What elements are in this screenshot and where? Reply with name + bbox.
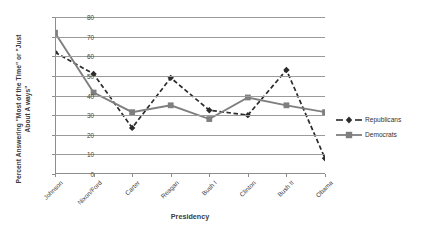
gridline — [55, 56, 325, 57]
y-tick-label: 40 — [87, 92, 94, 99]
x-tick-mark — [325, 174, 326, 177]
line-chart: Percent Answering "Most of the Time" or … — [0, 0, 423, 241]
y-tick-label: 10 — [87, 151, 94, 158]
y-tick-label: 60 — [87, 53, 94, 60]
gridline — [55, 17, 325, 18]
x-tick-mark — [286, 174, 287, 177]
x-tick-mark — [171, 174, 172, 177]
y-tick-mark — [52, 135, 55, 136]
x-tick-mark — [55, 174, 56, 177]
y-tick-mark — [52, 76, 55, 77]
y-tick-mark — [52, 154, 55, 155]
legend-label-republicans: Republicans — [365, 116, 401, 123]
x-tick-mark — [248, 174, 249, 177]
data-point — [283, 67, 289, 73]
chart-legend: Republicans Democrats — [336, 112, 421, 142]
legend-item-republicans: Republicans — [336, 112, 421, 127]
y-tick-mark — [52, 17, 55, 18]
y-tick-label: 0 — [90, 171, 94, 178]
legend-key-democrats — [336, 130, 362, 140]
legend-label-democrats: Democrats — [365, 131, 397, 138]
gridline — [55, 135, 325, 136]
data-point — [206, 116, 212, 122]
y-axis-title-line2: About A ways" — [23, 24, 32, 194]
x-tick-mark — [209, 174, 210, 177]
y-tick-mark — [52, 115, 55, 116]
y-axis-title: Percent Answering "Most of the Time" or … — [14, 24, 32, 194]
gridline — [55, 76, 325, 77]
y-tick-mark — [52, 56, 55, 57]
legend-key-republicans — [336, 115, 362, 125]
y-tick-label: 30 — [87, 112, 94, 119]
legend-item-democrats: Democrats — [336, 127, 421, 142]
y-tick-mark — [52, 37, 55, 38]
x-axis-title: Presidency — [55, 212, 325, 221]
gridline — [55, 37, 325, 38]
y-tick-label: 80 — [87, 14, 94, 21]
y-tick-label: 50 — [87, 72, 94, 79]
plot-area — [55, 17, 325, 174]
data-point — [168, 102, 174, 108]
x-axis-line — [55, 173, 325, 174]
y-tick-label: 20 — [87, 131, 94, 138]
x-tick-mark — [132, 174, 133, 177]
gridline — [55, 115, 325, 116]
data-point — [284, 102, 290, 108]
y-tick-mark — [52, 96, 55, 97]
y-tick-label: 70 — [87, 33, 94, 40]
gridline — [55, 154, 325, 155]
gridline — [55, 96, 325, 97]
y-axis-title-line1: Percent Answering "Most of the Time" or … — [15, 34, 22, 183]
